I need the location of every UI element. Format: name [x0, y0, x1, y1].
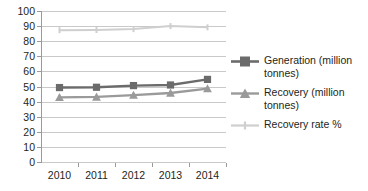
- y-axis-tick-mark: [37, 162, 41, 163]
- y-axis-tick-mark: [37, 41, 41, 42]
- legend-marker-square-icon: [231, 55, 259, 68]
- legend: Generation (million tonnes) Recovery (mi…: [231, 54, 368, 139]
- data-point: [93, 84, 100, 91]
- legend-item-generation[interactable]: Generation (million tonnes): [231, 54, 368, 79]
- data-point: [130, 82, 137, 89]
- legend-label-recovery-rate: Recovery rate %: [264, 118, 342, 131]
- data-point: [167, 81, 174, 88]
- line-chart: 1009080706050403020100 20102011201220132…: [0, 0, 368, 191]
- legend-item-recovery[interactable]: Recovery (million tonnes): [231, 86, 368, 111]
- y-axis-tick-mark: [37, 87, 41, 88]
- y-axis-tick-mark: [37, 11, 41, 12]
- data-point: [56, 84, 63, 91]
- legend-label-generation: Generation (million tonnes): [264, 54, 364, 79]
- y-axis-tick-mark: [37, 102, 41, 103]
- legend-marker-triangle-icon: [231, 87, 259, 100]
- series-square: [56, 76, 211, 91]
- y-axis-tick-mark: [37, 26, 41, 27]
- y-axis-tick-mark: [37, 117, 41, 118]
- y-axis-tick-mark: [37, 71, 41, 72]
- legend-label-recovery: Recovery (million tonnes): [264, 86, 364, 111]
- data-point: [204, 76, 211, 83]
- y-axis-tick-mark: [37, 132, 41, 133]
- series-line: [60, 23, 208, 33]
- legend-item-recovery-rate[interactable]: Recovery rate %: [231, 118, 368, 132]
- y-axis-tick-mark: [37, 147, 41, 148]
- legend-marker-line-icon: [231, 119, 259, 132]
- y-axis-tick-mark: [37, 56, 41, 57]
